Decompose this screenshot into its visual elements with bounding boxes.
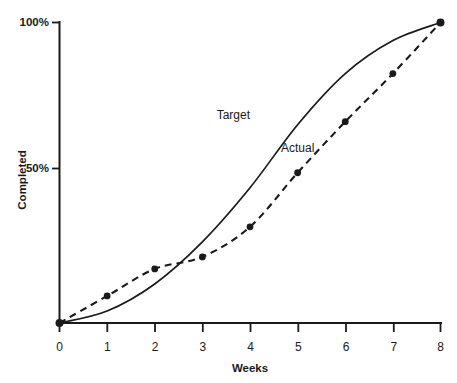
target-series-line bbox=[60, 23, 441, 324]
chart-container: 100% 50% Completed 0 1 2 3 4 5 6 7 8 bbox=[0, 0, 457, 383]
y-axis-title: Completed bbox=[16, 150, 28, 209]
data-point-marker bbox=[342, 118, 349, 125]
actual-series-line bbox=[60, 23, 441, 324]
x-tick-label-1: 1 bbox=[104, 340, 111, 354]
actual-series-label: Actual bbox=[281, 141, 314, 155]
y-tick-label-50: 50% bbox=[26, 162, 49, 174]
target-series-label: Target bbox=[217, 108, 251, 122]
actual-series-markers bbox=[56, 19, 445, 328]
data-point-marker bbox=[199, 253, 206, 260]
x-tick-label-7: 7 bbox=[390, 340, 397, 354]
x-tick-label-2: 2 bbox=[152, 340, 159, 354]
x-tick-label-5: 5 bbox=[295, 340, 302, 354]
data-point-marker bbox=[56, 319, 64, 327]
x-tick-label-3: 3 bbox=[199, 340, 206, 354]
x-tick-label-6: 6 bbox=[343, 340, 350, 354]
data-point-marker bbox=[247, 223, 254, 230]
x-tick-label-8: 8 bbox=[437, 340, 444, 354]
y-tick-label-100: 100% bbox=[20, 16, 49, 28]
x-axis-ticks bbox=[60, 323, 441, 332]
x-tick-label-0: 0 bbox=[56, 340, 63, 354]
x-axis-title: Weeks bbox=[232, 362, 268, 374]
data-point-marker bbox=[437, 19, 445, 27]
data-point-marker bbox=[151, 266, 158, 273]
x-tick-label-4: 4 bbox=[247, 340, 254, 354]
data-point-marker bbox=[389, 70, 396, 77]
x-axis-tick-labels: 0 1 2 3 4 5 6 7 8 bbox=[56, 340, 444, 354]
s-curve-progress-chart: 100% 50% Completed 0 1 2 3 4 5 6 7 8 bbox=[0, 0, 457, 383]
data-point-marker bbox=[104, 293, 111, 300]
axes-group bbox=[59, 22, 441, 324]
data-point-marker bbox=[294, 169, 301, 176]
